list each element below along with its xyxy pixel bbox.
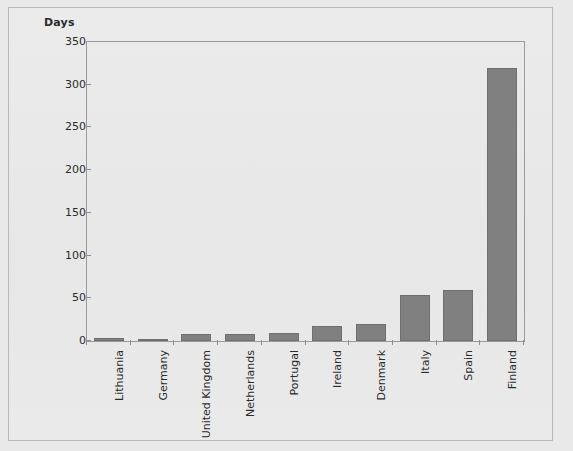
y-axis-tick-label: 50 <box>40 291 86 304</box>
bar-chart: Days 050100150200250300350 LithuaniaGerm… <box>0 0 573 451</box>
x-axis-tick-mark <box>348 340 349 345</box>
x-axis-tick-label: Portugal <box>288 350 301 396</box>
y-axis-tick-label: 350 <box>40 35 86 48</box>
plot-area <box>86 41 525 342</box>
bar <box>443 290 473 341</box>
y-axis-tick-label: 150 <box>40 205 86 218</box>
x-axis-tick-mark <box>392 340 393 345</box>
x-axis-tick-label: Ireland <box>331 350 344 388</box>
x-axis-tick-mark <box>130 340 131 345</box>
bars-layer <box>87 42 524 341</box>
x-axis-tick-mark <box>479 340 480 345</box>
bar <box>269 333 299 341</box>
bar <box>312 326 342 341</box>
x-axis-tick-label: Denmark <box>375 350 388 401</box>
x-axis-tick-mark <box>523 340 524 345</box>
x-axis-tick-label: Netherlands <box>244 350 257 417</box>
bar <box>94 338 124 341</box>
bar <box>356 324 386 341</box>
x-axis-tick-mark <box>436 340 437 345</box>
y-axis-tick-label: 200 <box>40 163 86 176</box>
y-axis-tick-label: 250 <box>40 120 86 133</box>
x-axis-tick-label: Finland <box>506 350 519 389</box>
x-axis-tick-label: Spain <box>462 350 475 381</box>
x-axis-tick-label: Italy <box>419 350 432 374</box>
y-axis-tick-label: 100 <box>40 248 86 261</box>
bar <box>225 334 255 341</box>
bar <box>487 68 517 341</box>
x-axis-tick-mark <box>217 340 218 345</box>
y-axis-tick-label: 0 <box>40 334 86 347</box>
x-axis-tick-mark <box>173 340 174 345</box>
bar <box>138 339 168 341</box>
bar <box>181 334 211 341</box>
x-axis-tick-label: Lithuania <box>113 350 126 401</box>
x-axis-tick-mark <box>261 340 262 345</box>
bar <box>400 295 430 341</box>
x-axis-tick-label: United Kingdom <box>200 350 213 438</box>
x-axis-tick-mark <box>86 340 87 345</box>
y-axis-tick-label: 300 <box>40 77 86 90</box>
x-axis-tick-label: Germany <box>157 350 170 401</box>
x-axis-tick-mark <box>305 340 306 345</box>
